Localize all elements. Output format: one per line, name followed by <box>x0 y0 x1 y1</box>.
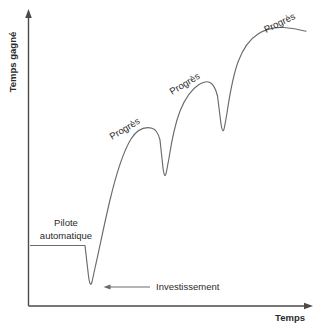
x-axis-label: Temps <box>275 312 305 323</box>
x-axis <box>29 303 314 309</box>
x-axis-arrow-icon <box>304 303 313 309</box>
y-axis-arrow-icon <box>25 9 32 18</box>
left-arrow-icon <box>104 284 111 289</box>
data-curve <box>30 27 306 284</box>
investment-label: Investissement <box>156 281 220 292</box>
progress-label-1: Progrès <box>107 115 141 142</box>
autopilot-label-line1: Pilote <box>54 217 78 228</box>
investment-arrow <box>104 284 151 289</box>
chart-container: Temps gagné Temps Pilote automatique Inv… <box>0 0 329 330</box>
y-axis <box>25 9 32 306</box>
progress-label-3: Progrès <box>262 10 297 35</box>
time-gained-vs-time-chart: Temps gagné Temps Pilote automatique Inv… <box>0 0 329 330</box>
y-axis-label: Temps gagné <box>7 32 18 93</box>
progress-label-2: Progrès <box>167 70 201 97</box>
autopilot-label-line2: automatique <box>40 230 92 241</box>
